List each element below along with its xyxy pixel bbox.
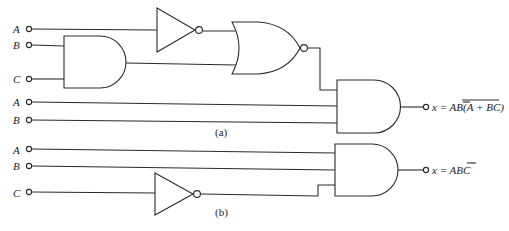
wire-a2-to-and	[32, 102, 337, 106]
logic-circuit-diagram: A B C A B x = AB(A + BC)	[0, 0, 509, 231]
input-terminal-b1	[26, 42, 31, 47]
output-expression-a: x = AB(A + BC)	[431, 101, 504, 114]
input-label-c3: C	[13, 187, 21, 199]
wire-inverter-to-and-b	[201, 185, 335, 196]
input-terminal-c3	[26, 189, 31, 194]
inverter-b-bubble-icon	[194, 191, 201, 198]
and-gate-icon	[64, 36, 126, 88]
input-label-a1: A	[12, 23, 20, 35]
and-gate-output-a-icon	[337, 80, 401, 133]
input-label-b1: B	[13, 39, 20, 51]
input-terminal-a2	[26, 99, 31, 104]
wire-b3-to-and	[32, 166, 335, 170]
not-gate-b-icon	[155, 173, 193, 215]
input-terminal-b3	[26, 163, 31, 168]
input-terminal-c1	[26, 76, 31, 81]
caption-a: (a)	[215, 126, 228, 139]
wire-a-to-inverter	[32, 29, 157, 30]
nor-gate-icon	[232, 22, 300, 74]
wire-b-to-and	[32, 45, 64, 46]
output-terminal-a	[423, 104, 428, 109]
wire-b2-to-and	[32, 120, 337, 123]
caption-b: (b)	[215, 206, 228, 219]
and-gate-output-b-icon	[335, 144, 398, 196]
circuit-b: A B C x = ABC (b)	[12, 144, 476, 219]
not-gate-icon	[157, 8, 195, 52]
wire-and-to-nor	[126, 63, 236, 65]
input-terminal-b2	[26, 117, 31, 122]
input-label-a3: A	[12, 144, 20, 156]
overlined-term: A + BC	[466, 101, 501, 113]
nor-bubble-icon	[301, 45, 308, 52]
overlined-c: C	[463, 164, 471, 176]
wire-nor-to-and	[307, 48, 337, 90]
input-terminal-a3	[26, 146, 31, 151]
circuit-a: A B C A B x = AB(A + BC)	[12, 8, 504, 139]
input-label-a2: A	[12, 96, 20, 108]
wire-c3-to-inverter	[32, 192, 155, 193]
input-terminal-a1	[26, 26, 31, 31]
wire-a3-to-and	[32, 149, 335, 153]
inverter-bubble-icon	[196, 27, 203, 34]
input-label-c1: C	[13, 73, 21, 85]
output-expression-b: x = ABC	[431, 164, 471, 176]
input-label-b3: B	[13, 160, 20, 172]
output-terminal-b	[423, 167, 428, 172]
input-label-b2: B	[13, 114, 20, 126]
